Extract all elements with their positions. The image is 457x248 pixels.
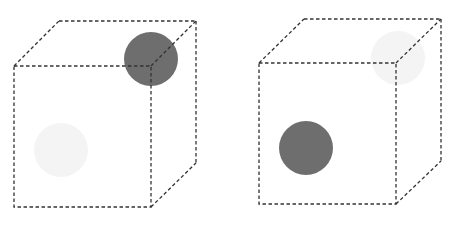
left-cube-diag-bottom-right [151, 163, 196, 207]
left-faint-sphere [34, 123, 88, 177]
left-dark-sphere [124, 32, 178, 86]
right-dark-sphere [279, 121, 333, 175]
right-cube-diag-bottom-right [396, 161, 441, 204]
left-cube-diag-top-left [14, 21, 59, 66]
right-cube-diag-top-left [259, 19, 304, 63]
cubes-diagram [0, 0, 457, 248]
right-faint-sphere [371, 31, 425, 85]
left-cube [14, 21, 196, 207]
right-cube [259, 19, 441, 204]
